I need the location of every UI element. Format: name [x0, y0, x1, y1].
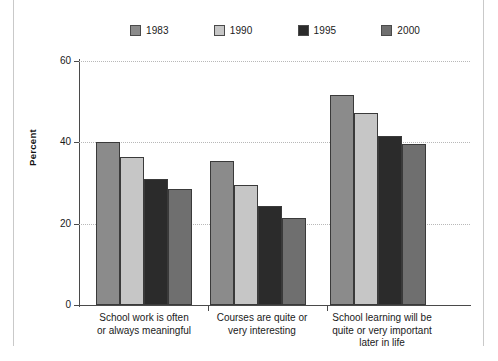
category-label-line: School learning will be: [302, 312, 462, 325]
y-tick-mark-60: [74, 61, 79, 62]
y-tick-mark-40: [74, 142, 79, 143]
x-axis-group-separator-1: [208, 305, 209, 311]
bar-2000-group3: [402, 144, 426, 305]
category-label-line: later in life: [302, 337, 462, 350]
gridline-60: [79, 61, 470, 63]
legend-label: 1995: [314, 25, 337, 36]
x-axis-line: [79, 305, 471, 306]
chart-legend: 1983199019952000: [130, 22, 420, 38]
bar-1990-group1: [120, 157, 144, 305]
legend-item-1995[interactable]: 1995: [298, 25, 337, 36]
bar-1983-group3: [330, 95, 354, 305]
category-label-line: quite or very important: [302, 325, 462, 338]
x-axis-group-separator-2: [327, 305, 328, 311]
legend-label: 1990: [230, 25, 253, 36]
y-tick-label: 0: [65, 300, 71, 310]
bar-2000-group1: [168, 189, 192, 305]
legend-swatch-icon-2000: [381, 25, 392, 36]
bar-1983-group2: [210, 161, 234, 305]
y-axis-title: Percent: [27, 129, 38, 166]
bar-chart-figure: 1983199019952000 Percent 0204060 School …: [0, 0, 498, 361]
legend-swatch-icon-1990: [214, 25, 225, 36]
bar-1990-group3: [354, 113, 378, 305]
plot-area: 0204060: [79, 61, 470, 305]
bar-1995-group2: [258, 206, 282, 305]
page-margin-rule-left: [13, 0, 14, 346]
y-tick-mark-0: [74, 305, 79, 306]
y-tick-label: 40: [60, 137, 71, 147]
bar-1995-group3: [378, 136, 402, 305]
legend-swatch-icon-1995: [298, 25, 309, 36]
legend-swatch-icon-1983: [130, 25, 141, 36]
legend-label: 1983: [146, 25, 169, 36]
legend-label: 2000: [397, 25, 420, 36]
legend-item-2000[interactable]: 2000: [381, 25, 420, 36]
legend-item-1983[interactable]: 1983: [130, 25, 169, 36]
legend-item-1990[interactable]: 1990: [214, 25, 253, 36]
y-tick-label: 60: [60, 56, 71, 66]
page-margin-rule-right: [483, 0, 484, 346]
y-tick-mark-20: [74, 224, 79, 225]
bar-1995-group1: [144, 179, 168, 305]
y-tick-label: 20: [60, 219, 71, 229]
bar-2000-group2: [282, 218, 306, 305]
category-label-3: School learning will bequite or very imp…: [302, 312, 462, 350]
bar-1983-group1: [96, 142, 120, 305]
bar-1990-group2: [234, 185, 258, 305]
